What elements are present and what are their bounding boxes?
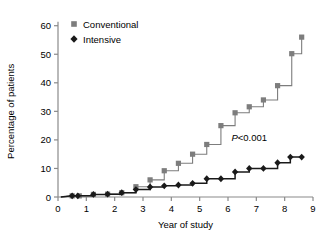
data-point-marker	[162, 168, 167, 173]
x-axis-title: Year of study	[158, 219, 213, 230]
data-point-marker	[175, 182, 181, 189]
x-tick-label: 3	[140, 203, 145, 214]
x-tick-label: 8	[282, 203, 287, 214]
data-point-marker	[261, 97, 266, 102]
legend-label-intensive: Intensive	[83, 34, 121, 45]
x-tick-label: 1	[84, 203, 89, 214]
y-tick-label: 40	[40, 77, 51, 88]
x-tick-label: 9	[310, 203, 315, 214]
data-point-marker	[275, 83, 280, 88]
series-conventional	[61, 35, 304, 199]
y-tick-label: 10	[40, 163, 51, 174]
x-tick-label: 5	[197, 203, 202, 214]
series-intensive	[61, 154, 305, 200]
series-line-conventional	[61, 37, 302, 197]
p-value-threshold: <0.001	[238, 132, 267, 143]
data-point-marker	[289, 51, 294, 56]
data-point-marker	[161, 182, 167, 189]
data-point-marker	[204, 142, 209, 147]
data-point-marker	[232, 168, 238, 175]
y-tick-label: 0	[46, 192, 51, 203]
y-tick-label: 50	[40, 49, 51, 60]
data-point-marker	[190, 152, 195, 157]
data-point-marker	[260, 165, 266, 172]
legend-marker-square	[71, 21, 77, 27]
x-tick-group: 0123456789	[55, 197, 315, 214]
y-axis-title: Percentage of patients	[5, 64, 16, 159]
data-point-marker	[176, 161, 181, 166]
data-point-marker	[218, 123, 223, 128]
axes-group	[58, 22, 313, 197]
legend-label-conventional: Conventional	[83, 19, 138, 30]
x-tick-label: 7	[254, 203, 259, 214]
data-point-marker	[232, 110, 237, 115]
y-tick-label: 60	[40, 20, 51, 31]
legend: ConventionalIntensive	[70, 19, 138, 45]
chart-container: 01234567890102030405060Year of studyPerc…	[0, 0, 329, 232]
data-point-marker	[204, 175, 210, 182]
y-tick-label: 20	[40, 134, 51, 145]
step-chart-plot: 01234567890102030405060Year of studyPerc…	[0, 0, 329, 232]
y-tick-label: 30	[40, 106, 51, 117]
data-point-marker	[299, 35, 304, 40]
data-point-marker	[247, 104, 252, 109]
data-point-marker	[287, 154, 293, 161]
data-point-marker	[274, 159, 280, 166]
y-tick-group: 0102030405060	[40, 20, 58, 202]
p-value-annotation: P<0.001	[231, 132, 267, 143]
x-tick-label: 6	[225, 203, 230, 214]
x-tick-label: 2	[112, 203, 117, 214]
data-point-marker	[147, 177, 152, 182]
data-point-marker	[218, 175, 224, 182]
data-point-marker	[246, 165, 252, 172]
x-tick-label: 0	[55, 203, 60, 214]
x-tick-label: 4	[169, 203, 174, 214]
data-point-marker	[298, 154, 304, 161]
legend-marker-diamond	[70, 35, 77, 43]
